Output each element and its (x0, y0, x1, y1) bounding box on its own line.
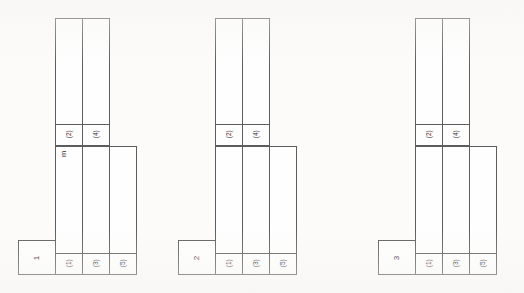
lower-column-2 (442, 146, 470, 254)
group-annotation-marker: m (60, 146, 68, 162)
lower-cell-label-3: (3) (453, 255, 460, 271)
lower-cell-label-5: (5) (120, 255, 127, 271)
lower-column-3 (469, 146, 497, 254)
upper-cell-label-4: (4) (253, 126, 260, 142)
lower-column-3 (269, 146, 297, 254)
lower-cell-label-1: (1) (426, 255, 433, 271)
upper-column-left (215, 18, 243, 137)
lower-column-3 (109, 146, 137, 254)
upper-column-left (55, 18, 83, 137)
lower-cell-label-3: (3) (93, 255, 100, 271)
upper-column-right (242, 18, 270, 137)
diagram-group-1: (2) (4) (1) (3) (5) 1 m (14, 0, 189, 293)
diagram-group-3: (2) (4) (1) (3) (5) 3 (374, 0, 524, 293)
lower-cell-label-1: (1) (66, 255, 73, 271)
lower-cell-label-5: (5) (280, 255, 287, 271)
group-index-label: 2 (193, 250, 201, 266)
lower-column-1 (215, 146, 243, 254)
upper-cell-label-2: (2) (66, 126, 73, 142)
lower-column-2 (82, 146, 110, 254)
upper-cell-label-4: (4) (453, 126, 460, 142)
lower-column-1 (415, 146, 443, 254)
diagram-group-2: (2) (4) (1) (3) (5) 2 (174, 0, 349, 293)
lower-column-1 (55, 146, 83, 254)
lower-cell-label-1: (1) (226, 255, 233, 271)
diagram-canvas: (2) (4) (1) (3) (5) 1 m (2) (4) (1) (0, 0, 524, 293)
upper-cell-label-2: (2) (226, 126, 233, 142)
lower-cell-label-3: (3) (253, 255, 260, 271)
group-index-label: 3 (393, 250, 401, 266)
upper-column-left (415, 18, 443, 137)
lower-cell-label-5: (5) (480, 255, 487, 271)
upper-column-right (82, 18, 110, 137)
group-index-label: 1 (33, 250, 41, 266)
lower-column-2 (242, 146, 270, 254)
upper-column-right (442, 18, 470, 137)
upper-cell-label-4: (4) (93, 126, 100, 142)
upper-cell-label-2: (2) (426, 126, 433, 142)
